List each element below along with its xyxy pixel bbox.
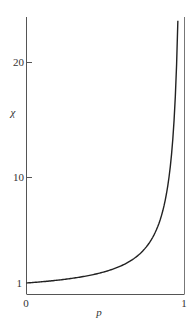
chart: 20 10 1 0 1 χ p [0, 0, 196, 324]
y-tick-label-10: 10 [13, 171, 25, 183]
x-axis-label: p [95, 306, 102, 318]
y-axis-label: χ [10, 106, 17, 118]
y-tick-label-1: 1 [17, 277, 23, 289]
data-curve [27, 21, 178, 283]
x-tick-label-1: 1 [181, 297, 187, 309]
x-tick-label-0: 0 [23, 297, 29, 309]
y-tick-label-20: 20 [13, 56, 25, 68]
